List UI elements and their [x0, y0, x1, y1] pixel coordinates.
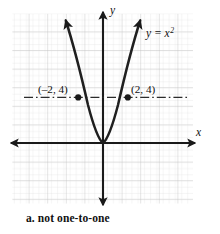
point-marker-right [125, 94, 131, 100]
figure-caption: a. not one-to-one [26, 212, 110, 224]
right-point-label: (2, 4) [131, 83, 156, 96]
left-point-label: (–2, 4) [38, 83, 68, 96]
coordinate-plane-svg: (–2, 4) (2, 4) y = x2 x y [0, 0, 220, 210]
figure-root: (–2, 4) (2, 4) y = x2 x y a. not one-to-… [0, 0, 220, 234]
y-axis-label: y [109, 4, 116, 17]
x-axis-label: x [195, 126, 202, 138]
point-marker-left [75, 94, 81, 100]
graph-plot-area: (–2, 4) (2, 4) y = x2 x y [0, 0, 220, 210]
curve-equation-exponent: 2 [170, 26, 174, 35]
curve-equation-base: y = x [145, 27, 171, 40]
